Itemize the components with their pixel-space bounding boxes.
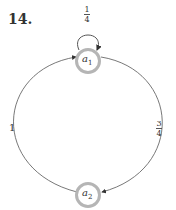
diagram-canvas: 14. a1 a2 14 34 1	[0, 0, 176, 210]
edge-a1-a2-weight: 34	[156, 119, 162, 138]
edge-a2-a1-weight: 1	[9, 122, 15, 133]
node-a1-label: a1	[82, 53, 92, 67]
self-loop-weight: 14	[84, 5, 90, 24]
node-a2-label: a2	[82, 187, 92, 201]
edge-a1-to-a2	[101, 57, 162, 192]
edge-a2-to-a1	[13, 57, 77, 192]
self-loop-edge-a1	[78, 35, 99, 50]
graph-edges	[0, 0, 176, 210]
